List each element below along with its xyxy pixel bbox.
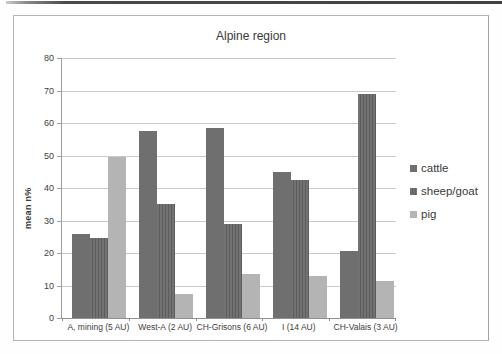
y-tick-label-80: 80 xyxy=(32,53,54,63)
bar-pig xyxy=(242,274,260,318)
legend-item: pig xyxy=(410,208,478,220)
y-tick-label-70: 70 xyxy=(32,86,54,96)
y-tick-label-20: 20 xyxy=(32,248,54,258)
x-axis-tick xyxy=(262,318,263,321)
bar-sheep-goat xyxy=(157,204,175,318)
bar-cattle xyxy=(139,131,157,318)
bar-sheep-goat xyxy=(358,94,376,318)
legend-label: cattle xyxy=(421,162,449,174)
y-tick-label-30: 30 xyxy=(32,216,54,226)
bar-sheep-goat xyxy=(224,224,242,318)
gridline-80 xyxy=(62,58,396,59)
legend-label: pig xyxy=(421,208,436,220)
plot-area xyxy=(61,58,396,319)
bar-cattle xyxy=(206,128,224,318)
x-tick-label: CH-Valais (3 AU) xyxy=(316,322,416,332)
legend-label: sheep/goat xyxy=(421,185,478,197)
bar-pig xyxy=(376,281,394,318)
bar-cattle xyxy=(72,234,90,319)
chart-frame: Alpine region mean n% 01020304050607080 … xyxy=(13,15,489,341)
legend: cattlesheep/goatpig xyxy=(410,162,478,231)
gridline-70 xyxy=(62,91,396,92)
x-axis-tick xyxy=(62,318,63,321)
bar-sheep-goat xyxy=(291,180,309,318)
gridline-60 xyxy=(62,123,396,124)
bar-sheep-goat xyxy=(90,238,108,318)
x-axis-tick xyxy=(196,318,197,321)
scanned-page: { "page": { "background": "#fefefe", "sc… xyxy=(0,0,502,354)
bar-pig xyxy=(309,276,327,318)
bar-pig xyxy=(175,294,193,318)
legend-swatch-icon xyxy=(410,211,417,218)
x-axis-tick xyxy=(395,318,396,321)
legend-item: sheep/goat xyxy=(410,185,478,197)
x-axis-tick xyxy=(329,318,330,321)
legend-item: cattle xyxy=(410,162,478,174)
legend-swatch-icon xyxy=(410,188,417,195)
y-tick-label-50: 50 xyxy=(32,151,54,161)
bar-cattle xyxy=(273,172,291,318)
bar-pig xyxy=(108,157,126,318)
bar-cattle xyxy=(340,251,358,318)
y-tick-label-40: 40 xyxy=(32,183,54,193)
scan-page-edge xyxy=(6,1,502,4)
x-axis-tick xyxy=(129,318,130,321)
legend-swatch-icon xyxy=(410,165,417,172)
chart-title: Alpine region xyxy=(14,29,488,43)
y-tick-label-10: 10 xyxy=(32,281,54,291)
y-tick-label-60: 60 xyxy=(32,118,54,128)
